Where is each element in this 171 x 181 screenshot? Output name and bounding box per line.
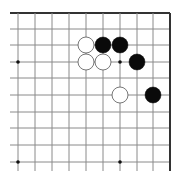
black-stone[interactable] [95, 37, 111, 53]
black-stone[interactable] [112, 37, 128, 53]
star-point-icon [16, 160, 20, 164]
black-stone[interactable] [129, 54, 145, 70]
white-stone[interactable] [95, 54, 111, 70]
go-board[interactable] [0, 0, 171, 181]
white-stone[interactable] [78, 54, 94, 70]
black-stone[interactable] [145, 87, 161, 103]
white-stone[interactable] [78, 37, 94, 53]
star-point-icon [16, 60, 20, 64]
star-point-icon [118, 60, 122, 64]
white-stone[interactable] [112, 87, 128, 103]
star-point-icon [118, 160, 122, 164]
